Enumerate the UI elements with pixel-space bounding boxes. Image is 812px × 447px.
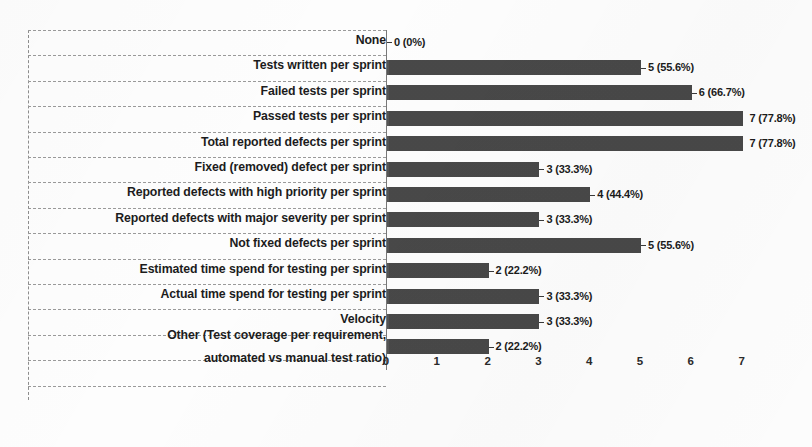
category-label: Actual time spend for testing per sprint (34, 284, 386, 304)
leader-dash (590, 195, 595, 196)
category-label: Total reported defects per sprint (34, 132, 386, 152)
category-label-line: Other (Test coverage per requirement, (34, 324, 386, 347)
bar-row: Failed tests per sprint6 (66.7%) (0, 81, 812, 106)
bar-row: Fixed (removed) defect per sprint3 (33.3… (0, 157, 812, 182)
leader-dash (489, 271, 494, 272)
data-label: 3 (33.3%) (546, 315, 592, 327)
x-tick-label: 6 (688, 355, 694, 367)
bar-row: Not fixed defects per sprint5 (55.6%) (0, 233, 812, 258)
bar (387, 212, 539, 227)
bar (387, 187, 590, 202)
leader-dash (692, 93, 697, 94)
leader-dash (387, 42, 392, 43)
data-label: 5 (55.6%) (648, 61, 694, 73)
data-label: 3 (33.3%) (546, 213, 592, 225)
data-label: 2 (22.2%) (496, 264, 542, 276)
bar-row: Reported defects with major severity per… (0, 208, 812, 233)
bar-row: Estimated time spend for testing per spr… (0, 259, 812, 284)
bar-row: Reported defects with high priority per … (0, 182, 812, 207)
data-label: 5 (55.6%) (648, 239, 694, 251)
bar (387, 339, 489, 354)
data-label: 7 (77.8%) (750, 137, 796, 149)
category-label: Reported defects with major severity per… (34, 208, 386, 228)
bar (387, 162, 539, 177)
leader-dash (489, 347, 494, 348)
bar (387, 60, 641, 75)
data-label: 7 (77.8%) (750, 112, 796, 124)
bar-row: Actual time spend for testing per sprint… (0, 284, 812, 309)
bar-row: None0 (0%) (0, 30, 812, 55)
category-label: None (34, 30, 386, 50)
bar-row: Tests written per sprint5 (55.6%) (0, 55, 812, 80)
category-label: Failed tests per sprint (34, 81, 386, 101)
category-label: Estimated time spend for testing per spr… (34, 259, 386, 279)
horizontal-bar-chart: None0 (0%)Tests written per sprint5 (55.… (0, 0, 812, 447)
data-label: 4 (44.4%) (597, 188, 643, 200)
bar (387, 85, 692, 100)
x-tick-label: 3 (535, 355, 541, 367)
category-label: Fixed (removed) defect per sprint (34, 157, 386, 177)
bar-row: Passed tests per sprint7 (77.8%) (0, 106, 812, 131)
x-tick-label: 0 (383, 355, 389, 367)
category-label: Tests written per sprint (34, 55, 386, 75)
category-label: Not fixed defects per sprint (34, 233, 386, 253)
bar (387, 238, 641, 253)
category-label: Other (Test coverage per requirement,aut… (34, 324, 386, 370)
x-tick-label: 2 (484, 355, 490, 367)
x-tick-label: 1 (434, 355, 440, 367)
data-label: 2 (22.2%) (496, 340, 542, 352)
x-tick-label: 5 (637, 355, 643, 367)
data-label: 0 (0%) (394, 36, 425, 48)
leader-dash (539, 220, 544, 221)
leader-dash (539, 169, 544, 170)
leader-dash (641, 68, 646, 69)
bar-row: Total reported defects per sprint7 (77.8… (0, 132, 812, 157)
leader-dash (539, 322, 544, 323)
data-label: 3 (33.3%) (546, 290, 592, 302)
bar (387, 263, 489, 278)
category-label: Passed tests per sprint (34, 106, 386, 126)
bar (387, 111, 743, 126)
x-tick-label: 7 (738, 355, 744, 367)
data-label: 3 (33.3%) (546, 163, 592, 175)
gridline (28, 386, 386, 387)
bar (387, 136, 743, 151)
x-tick-label: 4 (586, 355, 592, 367)
leader-dash (539, 296, 544, 297)
bar (387, 289, 539, 304)
category-label: Reported defects with high priority per … (34, 182, 386, 202)
bar (387, 314, 539, 329)
leader-dash (641, 245, 646, 246)
category-label-line: automated vs manual test ratio) (34, 347, 386, 370)
data-label: 6 (66.7%) (699, 86, 745, 98)
